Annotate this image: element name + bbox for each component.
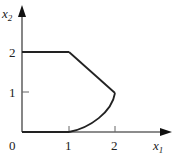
x-axis-arrow-icon bbox=[160, 128, 172, 136]
feasible-region bbox=[22, 52, 115, 132]
x-axis-label: x1 bbox=[152, 138, 163, 155]
y-axis-label: x2 bbox=[1, 6, 13, 23]
x-tick-label-1: 1 bbox=[65, 138, 72, 153]
y-tick-label-2: 2 bbox=[9, 45, 16, 60]
region-diagonal-edge bbox=[69, 52, 115, 93]
y-axis-arrow-icon bbox=[18, 5, 26, 17]
region-curved-edge bbox=[69, 93, 115, 132]
figure-canvas: 0 1 2 1 2 x1 x2 bbox=[0, 0, 182, 155]
x-tick-label-2: 2 bbox=[111, 138, 118, 153]
axes bbox=[18, 5, 172, 136]
x-tick-label-0: 0 bbox=[9, 138, 16, 153]
y-tick-label-1: 1 bbox=[9, 85, 16, 100]
tick-labels: 0 1 2 1 2 bbox=[9, 45, 118, 153]
